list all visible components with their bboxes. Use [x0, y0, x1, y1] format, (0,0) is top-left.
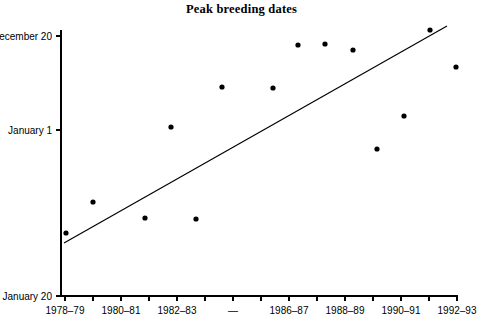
data-point — [427, 27, 432, 32]
x-axis-tick-labels: 1978–791980–811982–83—1986–871988–891990… — [46, 305, 477, 316]
y-tick-label: January 20 — [3, 291, 53, 302]
data-point — [322, 41, 327, 46]
chart-figure: Peak breeding dates ecember 20January 1J… — [0, 0, 483, 329]
data-point — [295, 42, 300, 47]
x-tick-label: 1978–79 — [46, 305, 85, 316]
x-tick-label: 1986–87 — [270, 305, 309, 316]
x-tick-label: 1980–81 — [102, 305, 141, 316]
data-point — [168, 124, 173, 129]
x-tick-label: 1992–93 — [438, 305, 477, 316]
axis-lines — [61, 30, 458, 296]
x-tick-label: 1982–83 — [158, 305, 197, 316]
x-tick-label: — — [228, 305, 238, 316]
data-point — [193, 216, 198, 221]
data-point — [453, 64, 458, 69]
trend-line — [64, 26, 447, 243]
data-point — [219, 84, 224, 89]
x-tick-label: 1990–91 — [382, 305, 421, 316]
y-tick-label: ecember 20 — [0, 31, 52, 42]
data-point — [142, 215, 147, 220]
x-tick-label: 1988–89 — [326, 305, 365, 316]
data-point — [270, 85, 275, 90]
data-point — [401, 113, 406, 118]
data-point — [90, 199, 95, 204]
data-point — [350, 47, 355, 52]
y-axis-tick-labels: ecember 20January 1January 20 — [0, 31, 52, 302]
scatter-plot-canvas: ecember 20January 1January 20 1978–79198… — [0, 0, 483, 329]
data-point — [63, 230, 68, 235]
data-point — [374, 146, 379, 151]
y-tick-label: January 1 — [8, 125, 52, 136]
